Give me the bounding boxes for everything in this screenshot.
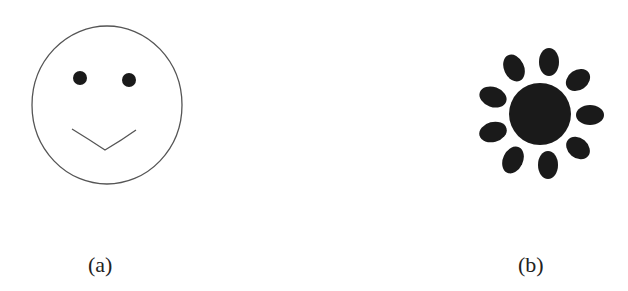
left-eye: [73, 71, 87, 85]
caption-a: (a): [88, 252, 112, 278]
flower-center: [509, 83, 571, 145]
petal: [498, 143, 528, 177]
figure-canvas: [0, 0, 628, 291]
petal: [538, 151, 558, 179]
mouth: [72, 129, 136, 150]
caption-b: (b): [518, 252, 544, 278]
petal: [576, 105, 604, 125]
petal: [477, 119, 509, 146]
petal: [499, 51, 529, 85]
petal: [562, 64, 595, 95]
petal: [476, 83, 509, 111]
petal: [562, 132, 595, 164]
petal: [539, 48, 559, 76]
right-eye: [122, 73, 136, 87]
face-outline: [32, 26, 182, 184]
smiley-face: [32, 26, 182, 184]
flower-shape: [476, 48, 604, 179]
